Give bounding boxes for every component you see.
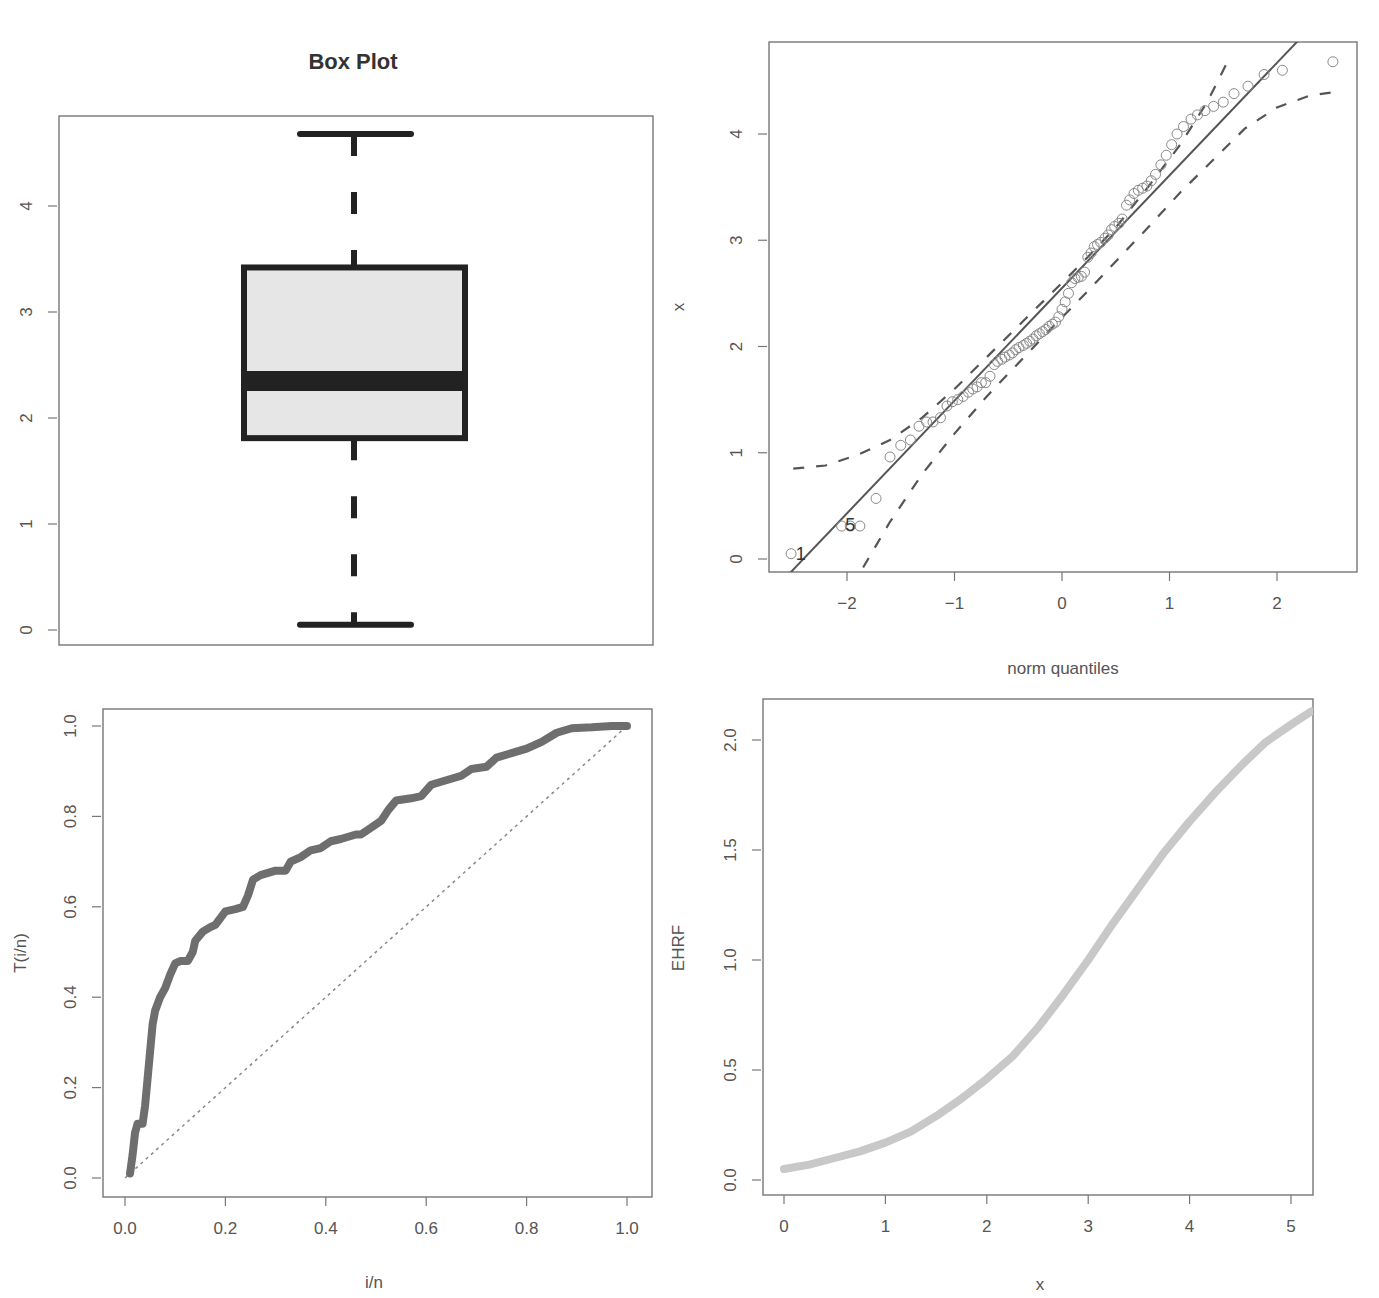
x-tick-label: 3 [1083, 1217, 1092, 1236]
y-tick-label: 0.0 [61, 1166, 80, 1190]
y-tick-label: 2 [17, 413, 36, 422]
x-tick-label: 2 [982, 1217, 991, 1236]
y-tick-label: 0.2 [61, 1076, 80, 1100]
y-tick-label: 2 [727, 342, 746, 351]
point-label: 5 [845, 515, 855, 535]
qqplot-y-label: x [669, 302, 688, 311]
figure-canvas: Box Plot 01234 01234−2−1012 15 norm quan… [0, 0, 1379, 1298]
x-tick-label: 0.0 [113, 1219, 137, 1238]
x-tick-label: 5 [1286, 1217, 1295, 1236]
y-tick-label: 4 [727, 129, 746, 138]
data-point [1243, 81, 1253, 91]
y-tick-label: 0.0 [721, 1168, 740, 1192]
ehrf-panel: 0.00.51.01.52.0012345 x EHRF [669, 699, 1313, 1294]
x-tick-label: −1 [945, 594, 964, 613]
lorenz-y-label: T(i/n) [11, 933, 30, 973]
qqplot-frame [769, 42, 1357, 572]
y-tick-label: 0.5 [721, 1058, 740, 1082]
qqplot-axes: 01234−2−1012 [727, 129, 1282, 613]
data-point [1328, 57, 1338, 67]
y-tick-label: 0.4 [61, 985, 80, 1009]
boxplot-y-axis: 01234 [17, 201, 57, 634]
data-point [1209, 101, 1219, 111]
reference-line [761, 0, 1363, 603]
y-tick-label: 3 [17, 307, 36, 316]
data-point [1063, 288, 1073, 298]
x-tick-label: 0 [779, 1217, 788, 1236]
qqplot-x-label: norm quantiles [1007, 659, 1119, 678]
data-point [855, 521, 865, 531]
y-tick-label: 0 [17, 625, 36, 634]
lorenz-frame [103, 709, 652, 1197]
y-tick-label: 1.5 [721, 838, 740, 862]
x-tick-label: 0.4 [314, 1219, 338, 1238]
qqplot-panel: 01234−2−1012 15 norm quantiles x [669, 0, 1363, 678]
x-tick-label: 1 [1165, 594, 1174, 613]
ehrf-x-label: x [1036, 1275, 1045, 1294]
y-tick-label: 1.0 [721, 948, 740, 972]
data-point [914, 421, 924, 431]
boxplot-title: Box Plot [308, 49, 398, 74]
y-tick-label: 2.0 [721, 728, 740, 752]
iqr-box [244, 267, 465, 438]
point-label: 1 [796, 544, 806, 564]
y-tick-label: 1 [727, 448, 746, 457]
lower-confidence-band [863, 93, 1331, 568]
y-tick-label: 1 [17, 519, 36, 528]
y-tick-label: 0.6 [61, 895, 80, 919]
x-tick-label: 1 [881, 1217, 890, 1236]
boxplot-panel: Box Plot 01234 [17, 49, 653, 645]
equality-line [125, 726, 627, 1178]
qqplot-content: 15 [761, 0, 1363, 603]
data-point [1229, 89, 1239, 99]
boxplot-body [244, 134, 465, 625]
x-tick-label: 0 [1057, 594, 1066, 613]
x-tick-label: 0.6 [414, 1219, 438, 1238]
data-point [1218, 97, 1228, 107]
data-point [896, 440, 906, 450]
x-tick-label: 0.2 [214, 1219, 238, 1238]
ehrf-y-label: EHRF [669, 925, 688, 971]
lorenz-x-label: i/n [365, 1273, 383, 1292]
data-point [1259, 70, 1269, 80]
data-point [1277, 65, 1287, 75]
y-tick-label: 0.8 [61, 805, 80, 829]
ehrf-curve [784, 711, 1311, 1169]
x-tick-label: −2 [837, 594, 856, 613]
lorenz-panel: 0.00.20.40.60.81.00.00.20.40.60.81.0 i/n… [11, 709, 652, 1292]
data-point [885, 452, 895, 462]
data-point [976, 378, 986, 388]
lorenz-content [125, 726, 627, 1178]
data-point [786, 549, 796, 559]
upper-confidence-band [793, 60, 1228, 469]
x-tick-label: 0.8 [515, 1219, 539, 1238]
ehrf-content [784, 711, 1311, 1169]
x-tick-label: 4 [1185, 1217, 1194, 1236]
data-point [1167, 140, 1177, 150]
data-point [905, 435, 915, 445]
y-tick-label: 0 [727, 554, 746, 563]
y-tick-label: 3 [727, 236, 746, 245]
x-tick-label: 1.0 [615, 1219, 639, 1238]
data-point [1161, 150, 1171, 160]
data-point [871, 493, 881, 503]
y-tick-label: 1.0 [61, 714, 80, 738]
x-tick-label: 2 [1272, 594, 1281, 613]
data-point [1178, 122, 1188, 132]
y-tick-label: 4 [17, 201, 36, 210]
